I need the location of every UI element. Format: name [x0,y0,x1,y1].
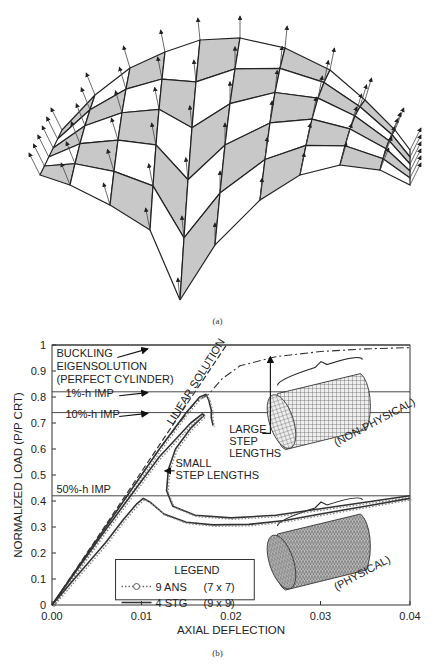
annotation-label: STEP [229,435,258,447]
annotation-label: 1%-h IMP [65,387,113,399]
x-tick-label: 0.02 [220,610,241,622]
y-tick-label: 0.6 [31,443,46,455]
annotation-label: LENGTHS [229,447,281,459]
x-tick-label: 0.03 [310,610,331,622]
caption-b: (b) [0,648,435,658]
x-tick-label: 0.04 [399,610,420,622]
legend-entry-name: 4 STG [156,597,188,609]
normal-vector-arrow [51,108,62,130]
annotation-label: STEP LENGTHS [176,469,260,481]
annotation-label: SMALL [176,457,212,469]
normal-vector-arrow [365,78,372,100]
annotation-label: 10%-h IMP [65,408,119,420]
mesh-element [118,109,159,145]
normal-vector-arrow [47,117,58,139]
mesh-element [40,164,75,185]
y-tick-label: 0.2 [31,547,46,559]
annotation-label: EIGENSOLUTION [56,360,147,372]
annotation-label: 50%-h IMP [56,483,110,495]
annotation-label: (PERFECT CYLINDER) [56,373,173,385]
normal-vector-arrow [285,26,287,48]
legend-title: LEGEND [174,564,219,576]
annotation-label: BUCKLING [56,347,112,359]
annotation-arrow [119,393,148,396]
annotation-arrow [119,413,148,416]
normal-vector-arrow [42,126,53,148]
y-tick-label: 0.9 [31,365,46,377]
mesh-element [70,164,114,205]
annotation-label: LARGE [229,423,266,435]
y-tick-label: 0.4 [31,495,46,507]
legend: LEGEND9 ANS(7 x 7)4 STG(9 x 9) [116,560,255,609]
y-tick-label: 0.5 [31,469,46,481]
y-tick-label: 0.3 [31,521,46,533]
legend-entry-mesh: (7 x 7) [204,581,235,593]
y-axis-label: NORMALIZED LOAD (P/P CRT) [12,392,24,558]
x-tick-label: 0.01 [131,610,152,622]
load-deflection-chart: 00.10.20.30.40.50.60.70.80.910.000.010.0… [0,330,435,648]
normal-vector-arrow [198,18,200,40]
x-tick-label: 0.00 [41,610,62,622]
y-tick-label: 1 [40,339,46,351]
normal-vector-arrow [395,108,404,130]
normal-vector-arrow [123,46,130,68]
legend-marker-circle [134,584,140,590]
x-axis-label: AXIAL DEFLECTION [177,624,285,636]
normal-vector-arrow [38,135,49,157]
normal-vector-arrow [161,30,165,52]
normal-vector-arrow [86,73,95,95]
shell-mesh-figure [0,0,435,310]
normal-vector-arrow [29,153,40,175]
y-tick-label: 0.8 [31,391,46,403]
mesh-element [235,38,285,69]
legend-entry-name: 9 ANS [156,581,187,593]
caption-a: (a) [0,316,435,326]
mesh-element [300,145,345,175]
legend-entry-mesh: (9 x 9) [204,597,235,609]
mesh-element [270,93,318,123]
normal-vector-arrow [33,144,44,166]
y-tick-label: 0.1 [31,573,46,585]
annotation-arrow [117,349,147,358]
y-tick-label: 0.7 [31,417,46,429]
mesh-elements [40,38,410,300]
annotation-label: LINEAR SOLUTION [164,336,227,426]
normal-vector-arrow [330,48,334,70]
